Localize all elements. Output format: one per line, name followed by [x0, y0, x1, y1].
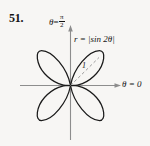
rose-petal-lower-right — [71, 85, 104, 120]
radius-one-label: 1 — [82, 62, 86, 70]
rose-petal-upper-left — [37, 51, 70, 86]
vertical-axis-arrowhead — [68, 25, 73, 32]
theta-zero-label: θ = 0 — [122, 80, 142, 89]
equals-symbol: = — [53, 17, 58, 27]
polar-equation-label: r = |sin 2θ| — [74, 35, 115, 44]
fraction-denominator: 2 — [59, 22, 65, 29]
horizontal-axis-arrowhead — [115, 83, 122, 88]
polar-graph-figure: 51. θ=π2 θ = 0 r = |sin 2θ| 1 — [0, 0, 150, 146]
polar-plot — [0, 0, 150, 146]
rose-petal-lower-left — [37, 85, 70, 120]
pi-over-two-fraction: π2 — [59, 14, 65, 29]
theta-half-pi-label: θ=π2 — [49, 14, 65, 29]
